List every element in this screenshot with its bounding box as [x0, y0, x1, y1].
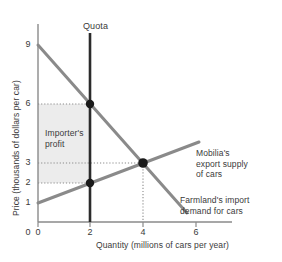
chart-canvas [0, 0, 282, 262]
y-tick-label-9: 9 [22, 39, 34, 49]
x-tick-label-6: 6 [190, 227, 202, 237]
y-tick-label-1: 1 [22, 197, 34, 207]
x-axis-title: Quantity (millions of cars per year) [96, 240, 229, 250]
chart-figure: 9 6 3 2 1 0 0 2 4 6 Price (thousands of … [0, 0, 282, 262]
importers-profit-annotation: Importer's profit [45, 128, 99, 149]
y-tick-label-3: 3 [22, 157, 34, 167]
quota-supply-point-marker [86, 179, 94, 187]
y-tick-label-2: 2 [22, 177, 34, 187]
quota-annotation: Quota [83, 21, 108, 32]
x-tick-label-0: 0 [32, 227, 44, 237]
y-tick-label-6: 6 [22, 98, 34, 108]
x-tick-label-4: 4 [137, 227, 149, 237]
free-trade-equilibrium-marker [138, 158, 148, 168]
quota-price-point-marker [86, 100, 94, 108]
export-supply-annotation: Mobilia's export supply of cars [196, 148, 280, 180]
import-demand-annotation: Farmland's import demand for cars [180, 195, 280, 216]
x-tick-label-2: 2 [84, 227, 96, 237]
y-axis-title: Price (thousands of dollars per car) [11, 80, 21, 216]
